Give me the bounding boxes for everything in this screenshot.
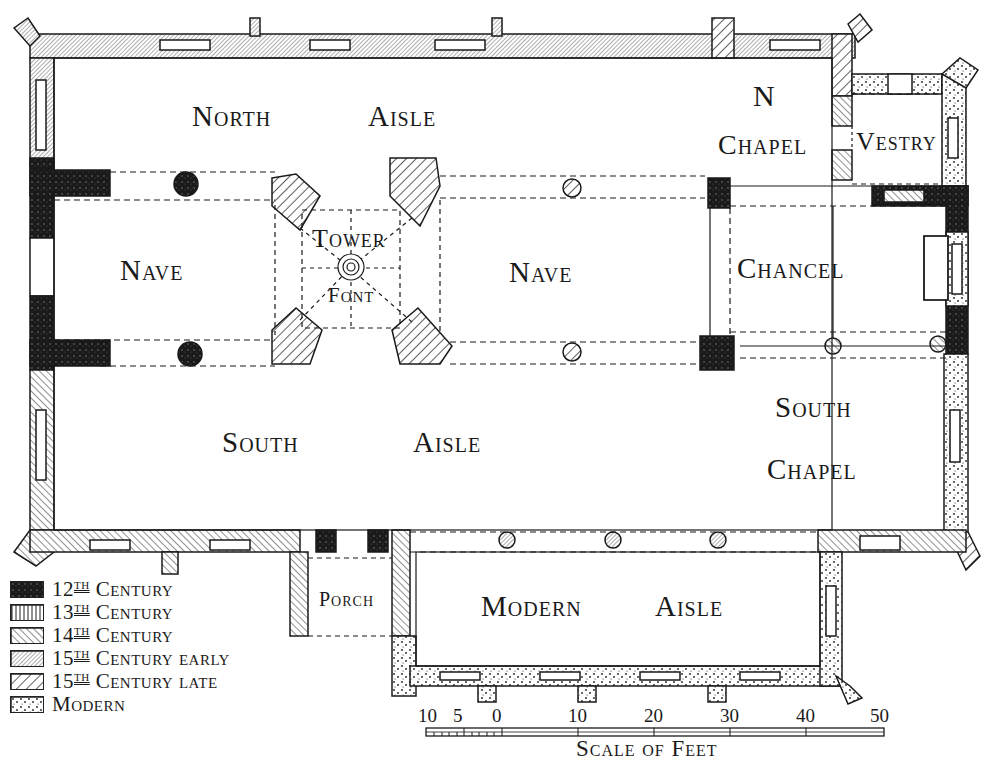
legend-num: 15 — [52, 646, 74, 670]
legend-item-modern: Modern — [10, 693, 230, 716]
legend-sup: TH — [74, 602, 90, 614]
swatch-12th-icon — [10, 581, 44, 598]
scale-tick-label: 50 — [870, 706, 889, 726]
swatch-15th-late-icon — [10, 673, 44, 690]
label-porch: Porch — [319, 588, 374, 610]
label-north-aisle-2: Aisle — [368, 100, 436, 132]
swatch-15th-early-icon — [10, 650, 44, 667]
porch-east-wall — [392, 530, 410, 636]
tower-pier-ne — [390, 158, 440, 226]
scale-bar: 10 5 0 10 20 30 40 50 Scale of Feet — [418, 706, 898, 742]
scale-tick-label: 20 — [644, 706, 663, 726]
scale-tick-label: 10 — [418, 706, 437, 726]
tower-pier-nw — [272, 174, 320, 230]
label-chancel: Chancel — [737, 252, 844, 284]
tower-pier-sw — [272, 308, 322, 364]
north-arcade-12th — [30, 170, 110, 196]
legend-num: 14 — [52, 623, 74, 647]
legend-sup: TH — [74, 671, 90, 683]
label-n-chapel-2: Chapel — [718, 129, 807, 160]
label-nave-west: Nave — [120, 254, 183, 286]
legend-item-12th: 12THCentury — [10, 578, 230, 601]
south-wall-west — [30, 530, 300, 552]
legend-num: 12 — [52, 577, 74, 601]
legend-num: 13 — [52, 600, 74, 624]
legend-text: Century — [96, 577, 174, 601]
label-vestry: Vestry — [856, 127, 937, 156]
scale-title: Scale of Feet — [576, 736, 718, 762]
label-south-chapel-2: Chapel — [767, 453, 857, 485]
label-south-aisle-2: Aisle — [413, 426, 481, 458]
tower-pier-se — [392, 308, 452, 364]
legend-item-15th-early: 15THCentury early — [10, 647, 230, 670]
legend: 12THCentury 13THCentury 14THCentury 15TH… — [10, 578, 230, 716]
label-modern-aisle-1: Modern — [481, 590, 582, 622]
swatch-modern-icon — [10, 696, 44, 713]
legend-sup: TH — [74, 625, 90, 637]
legend-item-15th-late: 15THCentury late — [10, 670, 230, 693]
south-arcade-12th — [30, 340, 110, 366]
legend-item-14th: 14THCentury — [10, 624, 230, 647]
label-north-aisle-1: North — [192, 100, 271, 132]
legend-text: Century late — [96, 669, 218, 693]
n-chapel-east-wall — [832, 34, 852, 96]
label-tower: Tower — [312, 224, 386, 253]
legend-text: Century early — [96, 646, 230, 670]
legend-item-13th: 13THCentury — [10, 601, 230, 624]
label-south-aisle-1: South — [222, 426, 299, 458]
legend-text: Century — [96, 600, 174, 624]
scale-tick-label: 40 — [796, 706, 815, 726]
legend-sup: TH — [74, 648, 90, 660]
scale-tick-label: 0 — [492, 706, 502, 726]
legend-text: Modern — [52, 692, 125, 716]
legend-text: Century — [96, 623, 174, 647]
label-south-chapel-1: South — [775, 391, 852, 423]
font-basin — [338, 254, 364, 280]
scale-tick-label: 5 — [453, 706, 463, 726]
altar — [924, 236, 948, 300]
label-nave-east: Nave — [509, 256, 572, 288]
legend-sup: TH — [74, 579, 90, 591]
label-modern-aisle-2: Aisle — [655, 590, 723, 622]
swatch-13th-icon — [10, 604, 44, 621]
legend-num: 15 — [52, 669, 74, 693]
scale-tick-label: 30 — [720, 706, 739, 726]
scale-ruler: 10 5 0 10 20 30 40 50 — [418, 706, 898, 738]
porch-west-wall — [290, 552, 308, 636]
label-n-chapel-1: N — [753, 79, 776, 112]
swatch-14th-icon — [10, 627, 44, 644]
scale-tick-label: 10 — [568, 706, 587, 726]
label-font: Font — [328, 283, 375, 307]
